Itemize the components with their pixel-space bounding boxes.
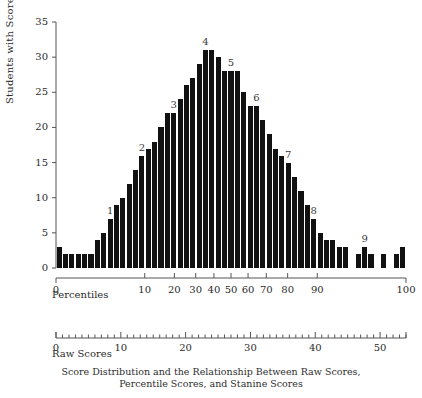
bar	[228, 71, 233, 268]
stanine-label-3: 3	[171, 99, 177, 110]
bar	[108, 219, 113, 268]
bar	[190, 78, 195, 268]
bar	[343, 247, 348, 268]
bar	[267, 134, 272, 268]
bar	[254, 106, 259, 268]
bar	[324, 240, 329, 268]
figure-root: Students with Score 05101520253035 12345…	[0, 0, 422, 398]
bar	[400, 247, 405, 268]
percentile-tick-label: 10	[138, 284, 151, 295]
raw-scores-axis-title: Raw Scores	[52, 348, 112, 359]
bar	[171, 113, 176, 268]
stanine-label-7: 7	[285, 149, 291, 160]
bar	[356, 254, 361, 268]
bar	[337, 247, 342, 268]
bar	[222, 71, 227, 268]
bar	[330, 240, 335, 268]
bar	[381, 254, 386, 268]
percentile-tick-label: 80	[281, 284, 294, 295]
bar	[178, 99, 183, 268]
raw-score-tick-label: 10	[114, 342, 127, 353]
bar	[165, 113, 170, 268]
bar	[152, 142, 157, 269]
y-axis-tick-label: 0	[26, 262, 48, 273]
bar	[260, 120, 265, 268]
bar	[311, 219, 316, 268]
bar	[292, 177, 297, 268]
percentile-tick-label: 30	[189, 284, 202, 295]
caption-line-2: Percentile Scores, and Stanine Scores	[0, 378, 422, 390]
percentile-tick-label: 100	[396, 284, 415, 295]
percentile-tick-label: 90	[311, 284, 324, 295]
bar	[57, 247, 62, 268]
y-axis-tick-label: 35	[26, 16, 48, 27]
bar	[95, 240, 100, 268]
bar	[318, 233, 323, 268]
bar	[120, 198, 125, 268]
bar	[76, 254, 81, 268]
percentile-tick-label: 40	[208, 284, 221, 295]
y-axis-tick-label: 5	[26, 227, 48, 238]
bar	[216, 57, 221, 268]
bar	[63, 254, 68, 268]
bar	[305, 205, 310, 268]
bar	[82, 254, 87, 268]
percentile-tick-label: 50	[225, 284, 238, 295]
stanine-label-4: 4	[202, 36, 208, 47]
percentile-tick-label: 20	[168, 284, 181, 295]
raw-score-tick-label: 20	[179, 342, 192, 353]
bar	[69, 254, 74, 268]
y-axis-tick-label: 30	[26, 51, 48, 62]
bar	[203, 50, 208, 268]
stanine-label-5: 5	[228, 57, 234, 68]
percentile-tick-label: 70	[260, 284, 273, 295]
bar	[146, 149, 151, 268]
bar	[394, 254, 399, 268]
raw-score-tick-label: 30	[244, 342, 257, 353]
bar	[235, 71, 240, 268]
y-axis-tick-label: 10	[26, 192, 48, 203]
bar	[279, 156, 284, 268]
bar	[127, 184, 132, 268]
bar	[133, 170, 138, 268]
bar	[88, 254, 93, 268]
bar	[197, 64, 202, 268]
percentile-tick-label: 60	[242, 284, 255, 295]
bar	[101, 233, 106, 268]
bar	[184, 85, 189, 268]
bar	[139, 156, 144, 268]
stanine-label-2: 2	[139, 142, 145, 153]
bar	[368, 254, 373, 268]
stanine-label-1: 1	[107, 205, 113, 216]
stanine-label-9: 9	[361, 233, 367, 244]
y-axis-tick-label: 20	[26, 121, 48, 132]
bar	[241, 92, 246, 268]
bar	[273, 149, 278, 268]
y-axis-tick-label: 25	[26, 86, 48, 97]
bar	[286, 163, 291, 268]
stanine-label-6: 6	[253, 92, 259, 103]
bar	[209, 50, 214, 268]
bar	[248, 106, 253, 268]
raw-score-tick-label: 50	[374, 342, 387, 353]
percentile-axis-title: Percentiles	[52, 289, 108, 300]
bar	[362, 247, 367, 268]
raw-score-tick-label: 40	[309, 342, 322, 353]
bar	[298, 191, 303, 268]
stanine-label-8: 8	[311, 205, 317, 216]
y-axis-title: Students with Score	[4, 0, 15, 104]
bar	[114, 205, 119, 268]
bar	[158, 127, 163, 268]
y-axis-tick-label: 15	[26, 157, 48, 168]
caption-line-1: Score Distribution and the Relationship …	[0, 366, 422, 378]
